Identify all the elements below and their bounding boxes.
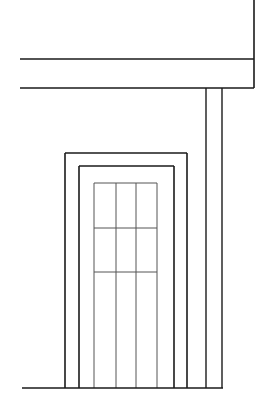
door-elevation-drawing	[0, 0, 259, 415]
roof-overhang	[20, 0, 254, 88]
door-outer-frame	[65, 153, 187, 388]
porch-post	[206, 88, 222, 388]
door-inner-frame	[79, 166, 174, 388]
door-glass-panel	[94, 183, 157, 388]
